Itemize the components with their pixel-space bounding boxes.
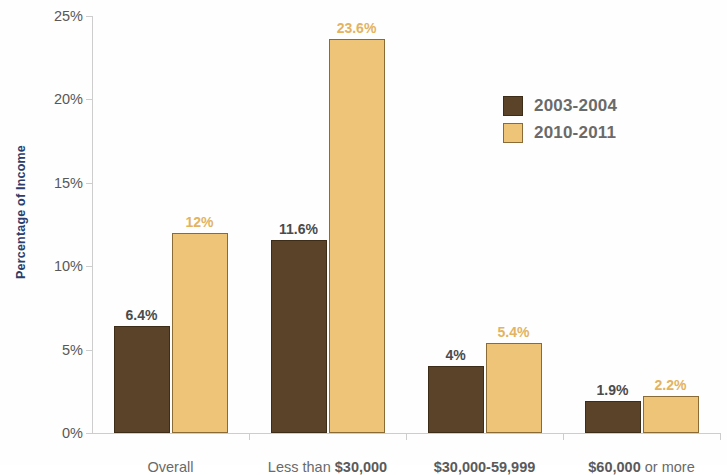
legend-swatch-icon-series-1	[503, 123, 523, 143]
legend-item-2010-2011: 2010-2011	[503, 119, 617, 146]
x-axis-separator-tick	[563, 433, 564, 440]
bar-0-3	[585, 401, 641, 433]
bar-value-label: 2.2%	[655, 377, 687, 393]
x-axis-category-label: Overall	[148, 459, 194, 475]
y-axis-tick	[86, 350, 92, 351]
y-axis-tick	[86, 266, 92, 267]
bar-0-0	[114, 326, 170, 433]
x-axis-separator-tick	[720, 433, 721, 440]
legend-label-series-1: 2010-2011	[534, 123, 616, 143]
y-axis-tick-label: 5%	[62, 342, 83, 358]
bar-value-label: 11.6%	[279, 221, 318, 237]
x-axis-category-label: $30,000-59,999	[434, 459, 536, 475]
bar-value-label: 5.4%	[498, 324, 530, 340]
bar-0-1	[271, 240, 327, 433]
y-axis-tick-label: 10%	[54, 258, 83, 274]
y-axis-tick	[86, 16, 92, 17]
bar-1-0	[172, 233, 228, 433]
bar-value-label: 4%	[445, 347, 465, 363]
bar-value-label: 6.4%	[126, 307, 158, 323]
y-axis-tick	[86, 183, 92, 184]
bar-value-label: 12%	[185, 214, 213, 230]
bar-value-label: 1.9%	[597, 382, 629, 398]
bar-1-3	[643, 396, 699, 433]
legend: 2003-2004 2010-2011	[503, 92, 617, 146]
x-axis-category-label: $60,000 or more	[588, 459, 694, 475]
y-axis-tick-label: 25%	[54, 8, 83, 24]
x-axis-separator-tick	[406, 433, 407, 440]
bar-1-2	[486, 343, 542, 433]
y-axis-line	[92, 16, 93, 434]
bar-1-1	[329, 39, 385, 433]
y-axis-tick-label: 20%	[54, 91, 83, 107]
legend-item-2003-2004: 2003-2004	[503, 92, 617, 119]
y-axis-title: Percentage of Income	[14, 112, 28, 312]
y-axis-tick-label: 15%	[54, 175, 83, 191]
legend-label-series-0: 2003-2004	[534, 96, 617, 116]
bar-value-label: 23.6%	[337, 20, 377, 36]
y-axis-tick	[86, 433, 92, 434]
y-axis-tick	[86, 99, 92, 100]
plot-area: 0%5%10%15%20%25% 6.4%12%11.6%23.6%4%5.4%…	[92, 16, 720, 433]
y-axis-tick-label: 0%	[62, 425, 83, 441]
x-axis-separator-tick	[249, 433, 250, 440]
x-axis-category-label: Less than $30,000	[268, 459, 387, 475]
legend-swatch-icon-series-0	[503, 96, 523, 116]
bar-0-2	[428, 366, 484, 433]
